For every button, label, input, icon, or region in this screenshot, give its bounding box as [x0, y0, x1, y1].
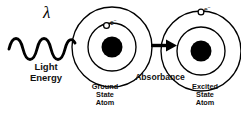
absorbance-diagram: λ e− e− Light Energy Ground State Atom A… — [0, 0, 241, 121]
ground-atom-electron-label: e− — [110, 17, 117, 26]
ground-atom-electron — [104, 23, 110, 29]
excited-electron-charge: − — [208, 4, 211, 10]
light-energy-line2: Energy — [4, 73, 88, 84]
excited-state-atom-label: Excited State Atom — [176, 83, 234, 108]
absorbance-label: Absorbance — [126, 73, 194, 83]
excited-atom-electron-label: e− — [204, 4, 211, 13]
arrow-right-icon — [151, 40, 177, 52]
light-energy-label: Light Energy — [4, 62, 88, 83]
excited-atom-nucleus — [191, 41, 212, 62]
excited-label-line3: Atom — [176, 99, 234, 107]
ground-state-atom-label: Ground State Atom — [76, 83, 134, 108]
wavelength-symbol: λ — [43, 3, 50, 23]
ground-electron-charge: − — [114, 17, 117, 23]
sine-wave-icon — [9, 39, 75, 60]
ground-label-line3: Atom — [76, 99, 134, 107]
ground-atom-nucleus — [102, 37, 123, 58]
